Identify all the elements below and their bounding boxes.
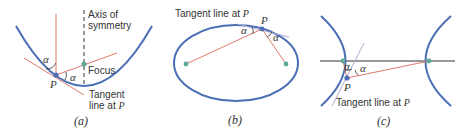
angle-arc-2 [355, 70, 358, 75]
focus-label: Focus [88, 65, 115, 76]
angle-label-1: α [241, 24, 247, 36]
angle-label-2: α [70, 71, 76, 83]
panel-b-ellipse: Tangent line at P P α α (b) [174, 8, 298, 127]
point-p [53, 72, 58, 77]
tangent-label: Tangent line at P [175, 8, 249, 19]
angle-label-1: α [344, 60, 350, 72]
angle-arc-2 [65, 72, 66, 80]
conic-reflection-diagram: α α P Axis of symmetry Focus Tangent lin… [0, 0, 468, 130]
axis-label-line1: Axis of [88, 9, 118, 20]
tangent-label-text: Tangent line at [336, 97, 404, 108]
angle-arc-2 [267, 32, 272, 37]
tangent-label: Tangent line at P [336, 97, 410, 108]
tangent-label-text: line at [89, 100, 118, 111]
caption-b: (b) [228, 113, 242, 127]
tangent-label-point: P [403, 97, 410, 108]
point-p [260, 27, 265, 32]
tangent-label-point: P [242, 8, 249, 19]
ellipse-curve [174, 25, 298, 101]
focus-point [81, 61, 86, 66]
angle-label-1: α [43, 53, 49, 65]
point-p [344, 75, 349, 80]
angle-label-2: α [273, 31, 279, 43]
point-p-label: P [260, 14, 268, 26]
angle-label-2: α [360, 62, 366, 74]
point-p-label: P [49, 78, 57, 90]
tangent-label-text: Tangent line at [175, 8, 243, 19]
panel-a-parabola: α α P Axis of symmetry Focus Tangent lin… [16, 9, 152, 128]
caption-a: (a) [74, 114, 88, 128]
point-p-label: P [343, 81, 351, 93]
panel-c-hyperbola: α α P Tangent line at P (c) [320, 16, 455, 128]
focus-right [427, 59, 432, 64]
caption-c: (c) [377, 114, 390, 128]
axis-label-line2: symmetry [88, 20, 131, 31]
tangent-label-point: P [117, 100, 124, 111]
tangent-label-line2: line at P [89, 100, 125, 111]
focus-left [184, 62, 189, 67]
focus-right [284, 62, 289, 67]
tangent-label-line1: Tangent [89, 89, 125, 100]
